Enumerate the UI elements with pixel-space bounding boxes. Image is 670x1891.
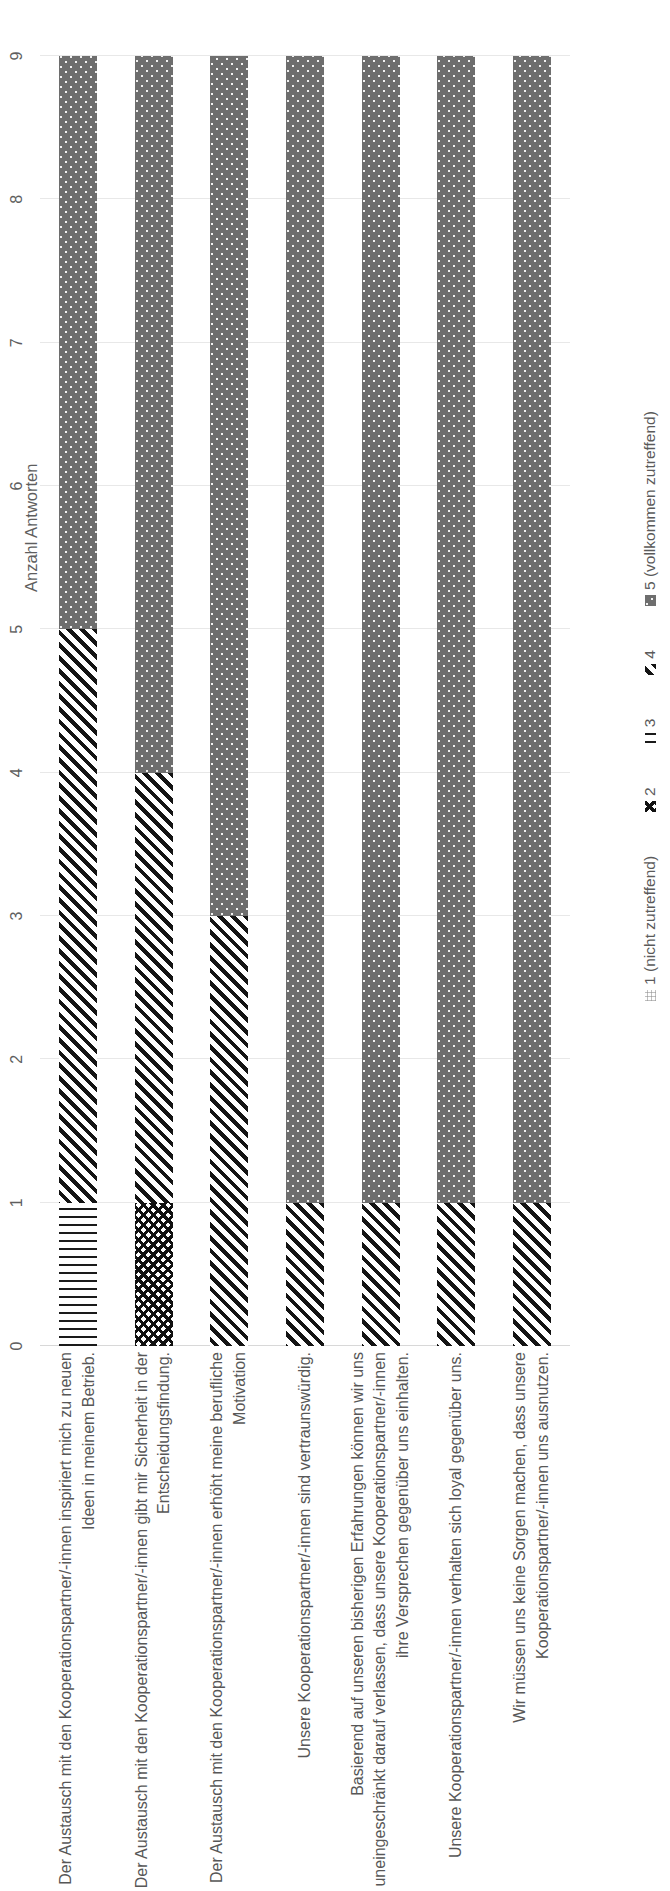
category-label: Wir müssen uns keine Sorgen machen, dass… [509, 1352, 554, 1891]
legend-swatch-icon [645, 801, 656, 812]
axis-tick-label: 0 [8, 1342, 26, 1351]
category-axis: Der Austausch mit den Kooperationspartne… [40, 1346, 570, 1412]
bar-segment[interactable] [135, 1203, 173, 1346]
category-label: Der Austausch mit den Kooperationspartne… [131, 1352, 176, 1891]
legend-swatch-icon [645, 732, 656, 743]
legend-item[interactable]: 1 (nicht zutreffend) [641, 856, 659, 1001]
legend-item[interactable]: 3 [641, 719, 659, 744]
axis-tick-label: 9 [8, 52, 26, 61]
value-axis: 0123456789 [0, 56, 40, 1346]
bar-segment[interactable] [210, 56, 248, 916]
category-label: Der Austausch mit den Kooperationspartne… [55, 1352, 100, 1891]
category-label-slot: Der Austausch mit den Kooperationspartne… [59, 1346, 97, 1412]
category-label: Unsere Kooperationspartner/-innen sind v… [294, 1352, 317, 1891]
bar-segment[interactable] [210, 916, 248, 1346]
legend-swatch-icon [645, 595, 656, 606]
category-label: Unsere Kooperationspartner/-innen verhal… [445, 1352, 468, 1891]
axis-tick-label: 5 [8, 625, 26, 634]
legend-swatch-icon [645, 990, 656, 1001]
bar-row[interactable] [135, 56, 173, 1346]
bar-segment[interactable] [135, 773, 173, 1203]
bar-segment[interactable] [362, 1203, 400, 1346]
axis-tick-label: 4 [8, 768, 26, 777]
legend-swatch-icon [645, 664, 656, 675]
legend-label: 3 [641, 719, 659, 728]
legend-label: 2 [641, 787, 659, 796]
bar-row[interactable] [286, 56, 324, 1346]
category-label-slot: Unsere Kooperationspartner/-innen sind v… [286, 1346, 324, 1412]
bar-segment[interactable] [362, 56, 400, 1203]
bar-row[interactable] [59, 56, 97, 1346]
bar-segment[interactable] [59, 629, 97, 1202]
bar-segment[interactable] [59, 1203, 97, 1346]
legend-item[interactable]: 4 [641, 650, 659, 675]
category-label-slot: Unsere Kooperationspartner/-innen verhal… [437, 1346, 475, 1412]
bar-row[interactable] [437, 56, 475, 1346]
legend-label: 4 [641, 650, 659, 659]
bar-segment[interactable] [59, 56, 97, 629]
category-label-slot: Wir müssen uns keine Sorgen machen, dass… [513, 1346, 551, 1412]
legend: 1 (nicht zutreffend)2345 (vollkommen zut… [630, 0, 670, 1412]
axis-tick-label: 7 [8, 338, 26, 347]
category-label-slot: Der Austausch mit den Kooperationspartne… [210, 1346, 248, 1412]
category-label-slot: Der Austausch mit den Kooperationspartne… [135, 1346, 173, 1412]
bar-segment[interactable] [437, 56, 475, 1203]
bar-segment[interactable] [286, 1203, 324, 1346]
bar-segment[interactable] [135, 56, 173, 773]
category-label-slot: Basierend auf unseren bisherigen Erfahru… [362, 1346, 400, 1412]
bar-group [40, 56, 570, 1346]
axis-tick-label: 1 [8, 1198, 26, 1207]
legend-label: 5 (vollkommen zutreffend) [641, 411, 659, 590]
axis-tick-label: 8 [8, 195, 26, 204]
bar-segment[interactable] [513, 1203, 551, 1346]
bar-segment[interactable] [513, 56, 551, 1203]
axis-tick-label: 3 [8, 912, 26, 921]
legend-label: 1 (nicht zutreffend) [641, 856, 659, 985]
category-label: Basierend auf unseren bisherigen Erfahru… [347, 1352, 415, 1891]
category-label: Der Austausch mit den Kooperationspartne… [207, 1352, 252, 1891]
bar-segment[interactable] [437, 1203, 475, 1346]
bar-row[interactable] [210, 56, 248, 1346]
bar-row[interactable] [513, 56, 551, 1346]
bar-segment[interactable] [286, 56, 324, 1203]
legend-item[interactable]: 2 [641, 787, 659, 812]
bar-row[interactable] [362, 56, 400, 1346]
plot-area [40, 56, 570, 1346]
axis-tick-label: 2 [8, 1055, 26, 1064]
axis-title: Anzahl Antworten [22, 464, 41, 592]
legend-item[interactable]: 5 (vollkommen zutreffend) [641, 411, 659, 606]
